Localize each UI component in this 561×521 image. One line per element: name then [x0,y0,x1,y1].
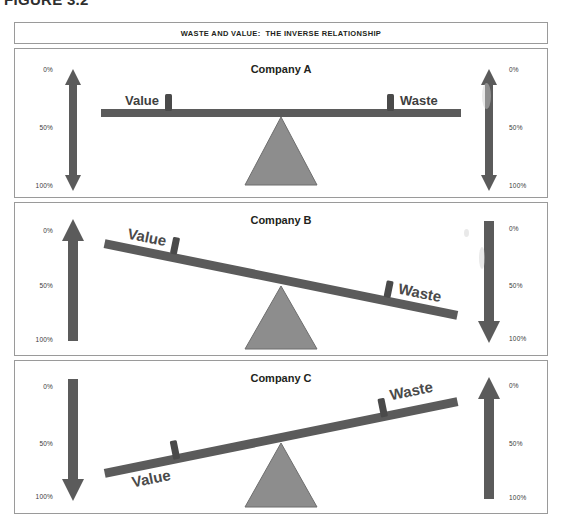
figure-title-band: WASTE AND VALUE: THE INVERSE RELATIONSHI… [14,22,548,44]
tick-label-0-right-b: 0% [509,225,519,232]
down-arrow-icon [27,361,87,513]
down-arrow-icon [475,203,535,355]
double-headed-vertical-arrow-icon [475,49,535,197]
waste-label-a: Waste [400,93,438,108]
tick-label-50-right-c: 50% [509,440,523,447]
waste-label-c: Waste [388,378,434,403]
double-headed-vertical-arrow-icon [27,49,87,197]
value-marker-b [170,237,180,255]
seesaw-a: Value Waste [87,49,475,197]
right-scale-axis-c: 0% 50% 100% [475,361,535,513]
tick-label-50-right-b: 50% [509,282,523,289]
panel-company-c: Company C 0% 50% 100% 0% 50% 100% [14,360,548,514]
tick-label-50-left-b: 50% [39,282,53,289]
fulcrum-a [245,117,317,185]
panel-company-b: Company B 0% 50% 100% 0% 50% 100% [14,202,548,356]
tick-label-50-right-a: 50% [509,124,523,131]
figure-frame: WASTE AND VALUE: THE INVERSE RELATIONSHI… [14,22,548,514]
figure-title: WASTE AND VALUE: THE INVERSE RELATIONSHI… [181,29,381,38]
tick-label-100-left-a: 100% [36,182,53,189]
waste-marker-b [384,280,394,298]
tick-label-100-right-b: 100% [509,335,526,342]
seesaw-c: Value Waste [87,361,475,513]
fulcrum-b [245,286,317,349]
panel-company-a: Company A 0% 50% 100% 0% 50% 100% [14,48,548,198]
tick-label-50-left-c: 50% [39,440,53,447]
waste-marker-a [387,94,394,111]
tick-label-0-left-a: 0% [43,66,53,73]
up-arrow-icon [27,203,87,355]
tick-label-100-left-b: 100% [36,336,53,343]
beam-a [101,109,461,117]
tick-label-50-left-a: 50% [39,124,53,131]
figure-caption: FIGURE 3.2 [4,0,89,8]
tick-label-100-right-a: 100% [509,182,526,189]
value-marker-a [165,94,172,111]
right-scale-axis-a: 0% 50% 100% [475,49,535,197]
tick-label-0-right-a: 0% [509,66,519,73]
tick-label-100-right-c: 100% [509,494,526,501]
fulcrum-c [245,443,317,507]
up-arrow-icon [475,361,535,513]
value-label-a: Value [125,93,159,108]
seesaw-b: Value Waste [87,203,475,355]
tick-label-100-left-c: 100% [36,493,53,500]
tick-label-0-left-c: 0% [43,383,53,390]
tick-label-0-right-c: 0% [509,382,519,389]
right-scale-axis-b: 0% 50% 100% [475,203,535,355]
left-scale-axis-c: 0% 50% 100% [27,361,87,513]
left-scale-axis-b: 0% 50% 100% [27,203,87,355]
left-scale-axis-a: 0% 50% 100% [27,49,87,197]
tick-label-0-left-b: 0% [43,227,53,234]
